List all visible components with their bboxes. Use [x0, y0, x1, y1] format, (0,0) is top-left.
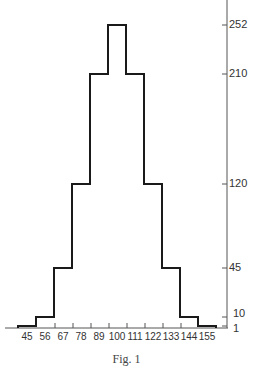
y-tick-label: 252: [229, 19, 247, 30]
y-tick-label: 45: [229, 262, 241, 273]
x-tick-label: 144: [181, 332, 198, 342]
x-tick-label: 89: [93, 332, 104, 342]
x-tick-label: 45: [21, 332, 32, 342]
y-tick-label: 120: [229, 178, 247, 189]
x-tick-label: 100: [109, 332, 126, 342]
x-tick-label: 67: [57, 332, 68, 342]
figure-caption: Fig. 1: [0, 352, 253, 367]
x-tick-label: 111: [127, 332, 142, 342]
y-axis-ticks: [222, 25, 227, 326]
y-tick-label: 210: [229, 68, 247, 79]
y-tick-label: 10: [233, 308, 245, 319]
histogram-step-line: [18, 25, 216, 328]
x-tick-label: 56: [39, 332, 50, 342]
x-tick-label: 78: [75, 332, 86, 342]
x-axis-ticks: [55, 323, 181, 328]
x-tick-label: 155: [199, 332, 216, 342]
y-tick-label: 1: [233, 323, 239, 334]
x-tick-label: 133: [163, 332, 180, 342]
x-tick-label: 122: [145, 332, 162, 342]
